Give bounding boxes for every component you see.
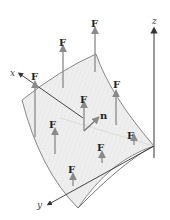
normal-label: n bbox=[100, 110, 108, 121]
x-axis-label: x bbox=[10, 68, 15, 78]
z-axis-label: z bbox=[151, 16, 157, 26]
flux-diagram: z x y F F F F F F bbox=[0, 0, 170, 220]
svg-text:F: F bbox=[97, 142, 104, 153]
svg-text:F: F bbox=[113, 79, 120, 90]
svg-text:F: F bbox=[127, 130, 134, 141]
svg-text:F: F bbox=[80, 94, 87, 105]
svg-text:F: F bbox=[68, 164, 75, 175]
svg-text:F: F bbox=[59, 37, 66, 48]
svg-text:F: F bbox=[31, 71, 38, 82]
y-axis-label: y bbox=[36, 200, 43, 210]
svg-text:F: F bbox=[49, 119, 56, 130]
z-axis: z bbox=[151, 16, 157, 158]
svg-text:F: F bbox=[91, 18, 98, 29]
surface bbox=[22, 54, 154, 208]
